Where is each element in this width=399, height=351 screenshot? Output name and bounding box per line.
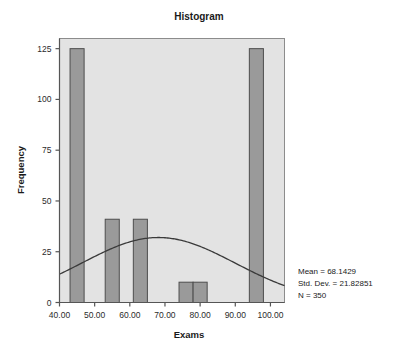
x-axis-title: Exams bbox=[174, 329, 205, 340]
stat-mean: Mean = 68.1429 bbox=[298, 267, 357, 276]
histogram-figure: Histogram 0255075100125 40.0050.0060.007… bbox=[0, 0, 399, 351]
y-axis-tick-label: 50 bbox=[42, 196, 52, 206]
y-axis-tick-label: 75 bbox=[42, 145, 52, 155]
stat-std-dev: Std. Dev. = 21.82851 bbox=[298, 279, 373, 288]
y-axis-tick-label: 100 bbox=[37, 94, 51, 104]
histogram-bar bbox=[249, 49, 263, 303]
y-axis-tick-label: 125 bbox=[37, 44, 51, 54]
y-axis-title: Frequency bbox=[15, 145, 26, 194]
x-axis-tick-label: 60.00 bbox=[119, 310, 141, 320]
histogram-bar bbox=[193, 282, 207, 302]
histogram-bar bbox=[179, 282, 193, 302]
x-axis-tick-label: 70.00 bbox=[154, 310, 176, 320]
y-axis-tick-label: 25 bbox=[42, 247, 52, 257]
histogram-bar bbox=[70, 49, 84, 303]
x-axis-tick-label: 50.00 bbox=[84, 310, 106, 320]
histogram-canvas: Histogram 0255075100125 40.0050.0060.007… bbox=[0, 0, 399, 351]
histogram-bar bbox=[133, 219, 147, 302]
histogram-bar bbox=[105, 219, 119, 302]
x-axis-tick-label: 40.00 bbox=[49, 310, 71, 320]
x-axis-tick-label: 80.00 bbox=[189, 310, 211, 320]
chart-title: Histogram bbox=[174, 11, 224, 22]
x-axis-tick-label: 90.00 bbox=[225, 310, 247, 320]
y-axis-tick-label: 0 bbox=[47, 298, 52, 308]
x-axis-tick-label: 100.00 bbox=[257, 310, 283, 320]
stat-n: N = 350 bbox=[298, 291, 327, 300]
